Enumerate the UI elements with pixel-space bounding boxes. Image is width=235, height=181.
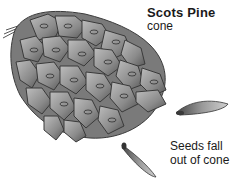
pine-cone: [11, 11, 166, 142]
seed-lower-kernel: [122, 143, 127, 150]
species-subtitle: cone: [147, 19, 173, 33]
caption-line-1: Seeds fall: [170, 139, 229, 153]
seeds-caption: Seeds fall out of cone: [170, 139, 229, 167]
seed-lower: [122, 145, 156, 177]
species-title: Scots Pine: [147, 5, 215, 20]
seed-upper-kernel: [176, 111, 184, 115]
caption-line-2: out of cone: [170, 153, 229, 167]
